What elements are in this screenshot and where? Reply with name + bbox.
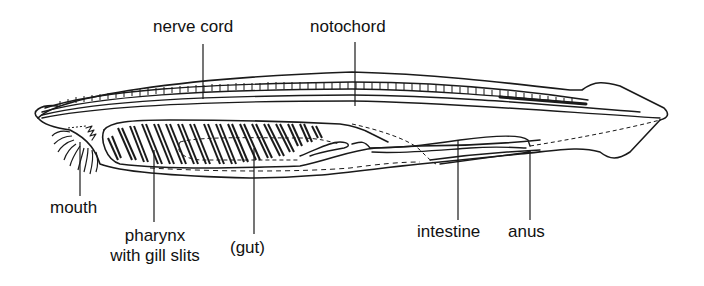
lancelet-diagram: nerve cord notochord mouth pharynx with … [0,0,704,286]
label-intestine: intestine [417,222,480,242]
label-mouth: mouth [50,198,97,218]
label-nerve-cord: nerve cord [153,17,233,37]
label-pharynx: pharynx with gill slits [100,226,210,266]
label-gut: (gut) [230,238,265,258]
wheel-organ [86,126,96,140]
label-pharynx-line1: pharynx [100,226,210,246]
label-notochord: notochord [310,17,386,37]
gill-slits [108,124,322,164]
hepatic-caecum [300,142,348,156]
label-pharynx-line2: with gill slits [100,246,210,266]
oral-hood-dotted [68,126,86,128]
tail-ventral-dashed [530,120,660,146]
label-anus: anus [508,222,545,242]
oral-cirri [52,131,98,174]
